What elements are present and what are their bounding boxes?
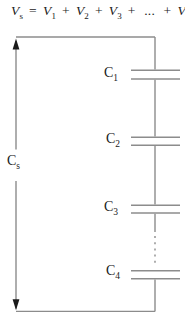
capacitors-in-series-figure: Vs = V1 + V2 + V3 + ... + Vn xyxy=(0,0,185,323)
capacitor-3-symbol xyxy=(131,205,180,213)
capacitance-subscript-3: 3 xyxy=(113,207,118,217)
capacitance-subscript-1: 1 xyxy=(113,73,118,83)
capacitor-2-symbol xyxy=(131,137,180,145)
series-capacitance-label: Cs xyxy=(7,153,20,172)
capacitance-symbol: C xyxy=(104,65,113,80)
capacitor-4-symbol xyxy=(131,271,180,279)
capacitance-symbol: C xyxy=(7,153,16,168)
capacitor-1-label: C1 xyxy=(104,65,118,84)
capacitor-4-label: C4 xyxy=(106,263,120,282)
capacitance-subscript-s: s xyxy=(16,161,20,171)
capacitor-3-label: C3 xyxy=(104,199,118,218)
capacitance-symbol: C xyxy=(106,263,115,278)
circuit-diagram xyxy=(0,0,185,323)
capacitance-subscript-2: 2 xyxy=(115,139,120,149)
capacitance-subscript-4: 4 xyxy=(115,271,120,281)
circuit-wires xyxy=(16,37,180,311)
capacitance-symbol: C xyxy=(106,131,115,146)
capacitor-1-symbol xyxy=(131,70,180,79)
down-arrowhead-icon xyxy=(13,299,20,310)
capacitance-symbol: C xyxy=(104,199,113,214)
up-arrowhead-icon xyxy=(13,39,20,50)
capacitor-2-label: C2 xyxy=(106,131,120,150)
